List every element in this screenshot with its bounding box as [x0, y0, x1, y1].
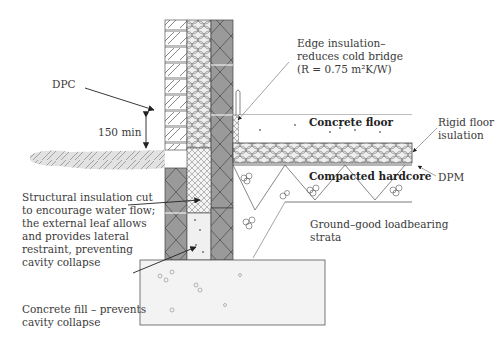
label-dpm: DPM	[438, 171, 464, 184]
label-concrete-floor: Concrete floor	[309, 116, 393, 129]
ground-soil	[30, 150, 165, 170]
label-edge-insulation: Edge insulation– reduces cold bridge (R …	[297, 37, 403, 76]
label-concrete-fill: Concrete fill – prevents cavity collapse	[22, 303, 146, 329]
label-ground: Ground–good loadbearing strata	[310, 218, 448, 244]
label-rigid-floor-insulation: Rigid floor isulation	[438, 116, 494, 142]
label-structural-insulation: Structural insulation cut to encourage w…	[22, 191, 155, 269]
label-150-min: 150 min	[98, 126, 141, 139]
label-compacted-hardcore: Compacted hardcore	[309, 170, 431, 183]
label-dpc: DPC	[52, 78, 76, 91]
